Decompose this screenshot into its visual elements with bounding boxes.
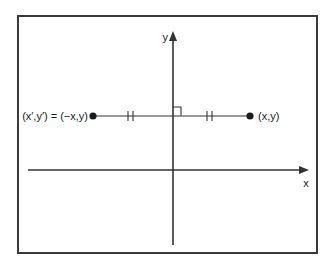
reflection-diagram: y x (x′,y′) = (−x,y) (x,y): [0, 0, 335, 271]
right-point-label: (x,y): [258, 110, 279, 122]
x-axis-label: x: [303, 177, 309, 189]
left-point-dot: [89, 112, 96, 119]
x-axis-arrowhead-icon: [299, 166, 309, 174]
right-point-dot: [246, 112, 253, 119]
right-angle-marker: [173, 107, 181, 116]
figure-canvas: y x (x′,y′) = (−x,y) (x,y): [0, 0, 335, 271]
left-point-label: (x′,y′) = (−x,y): [22, 110, 88, 122]
y-axis-arrowhead-icon: [169, 31, 177, 41]
figure-border: [18, 16, 317, 253]
y-axis-label: y: [163, 31, 169, 43]
